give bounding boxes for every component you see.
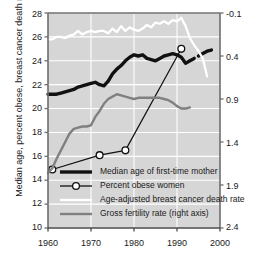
x-tick-2000: 2000 bbox=[203, 238, 237, 248]
legend-item-percent-obese: Percent obese women bbox=[58, 179, 218, 193]
chart-figure: Median age, percent obese, breast cancer… bbox=[0, 0, 265, 266]
legend-item-fertility: Gross fertility rate (right axis) bbox=[58, 207, 218, 221]
y2-tick-1.9: 1.9 bbox=[226, 181, 250, 191]
y-tick-10: 10 bbox=[22, 222, 42, 232]
legend-key-line-open-circle bbox=[58, 179, 94, 193]
x-tick-1980: 1980 bbox=[117, 238, 151, 248]
legend-item-breast-cancer: Age-adjusted breast cancer death rate bbox=[58, 193, 218, 207]
legend-label-median-age: Median age of first-time mother bbox=[100, 166, 218, 176]
y2-tick-1.4: 1.4 bbox=[226, 138, 250, 148]
y-tick-12: 12 bbox=[22, 198, 42, 208]
y2-tick-0.4: 0.4 bbox=[226, 52, 250, 62]
legend-label-percent-obese: Percent obese women bbox=[100, 180, 185, 190]
y-tick-14: 14 bbox=[22, 174, 42, 184]
y2-tick-n0.1: -0.1 bbox=[226, 9, 250, 19]
y2-tick-2.4: 2.4 bbox=[226, 222, 250, 232]
y-tick-26: 26 bbox=[22, 32, 42, 42]
y-tick-20: 20 bbox=[22, 103, 42, 113]
legend-label-breast-cancer: Age-adjusted breast cancer death rate bbox=[100, 194, 245, 204]
y-tick-16: 16 bbox=[22, 151, 42, 161]
y-tick-22: 22 bbox=[22, 80, 42, 90]
y-tick-24: 24 bbox=[22, 56, 42, 66]
x-tick-1960: 1960 bbox=[31, 238, 65, 248]
y2-tick-0.9: 0.9 bbox=[226, 95, 250, 105]
legend-key-white-line bbox=[58, 193, 94, 207]
legend-label-fertility: Gross fertility rate (right axis) bbox=[100, 208, 209, 218]
legend-key-thick-black-line bbox=[58, 165, 94, 179]
legend-item-median-age: Median age of first-time mother bbox=[58, 165, 218, 179]
chart-legend: Median age of first-time mother Percent … bbox=[58, 165, 218, 221]
plot-area: Median age of first-time mother Percent … bbox=[48, 13, 220, 228]
y-tick-28: 28 bbox=[22, 9, 42, 19]
x-tick-1970: 1970 bbox=[74, 238, 108, 248]
x-tick-1990: 1990 bbox=[160, 238, 194, 248]
y-tick-18: 18 bbox=[22, 127, 42, 137]
legend-key-gray-line bbox=[58, 207, 94, 221]
